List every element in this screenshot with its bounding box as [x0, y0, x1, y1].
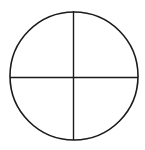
quadrant-circle-diagram [0, 0, 145, 150]
